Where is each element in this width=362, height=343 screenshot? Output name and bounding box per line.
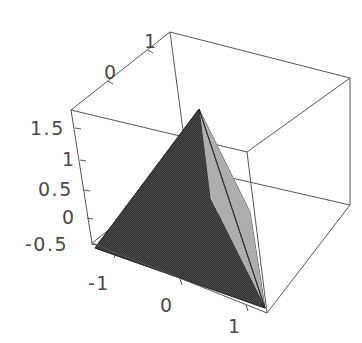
y-tick-label-1: 1 — [144, 30, 158, 52]
x-tick-0 — [180, 279, 182, 285]
x-tick-1 — [246, 305, 248, 311]
z-tick-label-0.5: 0.5 — [38, 178, 73, 200]
plot-root: 1.5 1 0.5 0 -0.5 -1 0 1 0 1 — [0, 0, 362, 343]
plot-canvas: 1.5 1 0.5 0 -0.5 -1 0 1 0 1 — [0, 0, 362, 343]
y-axis-labels: 0 1 — [104, 30, 158, 83]
z-tick-label-1.5: 1.5 — [30, 117, 65, 139]
box-bottom-front-right-edge — [267, 205, 350, 313]
z-axis-labels: 1.5 1 0.5 0 -0.5 — [25, 117, 76, 255]
x-tick-label--1: -1 — [88, 272, 110, 294]
x-tick-label-1: 1 — [228, 315, 242, 337]
z-tick-0.5 — [84, 190, 90, 191]
z-tick-1.5 — [75, 128, 81, 129]
x-tick-label-0: 0 — [160, 294, 174, 316]
z-tick-1 — [80, 160, 86, 161]
y-tick-label-0: 0 — [104, 61, 118, 83]
z-tick-label-1: 1 — [62, 148, 76, 170]
z-tick-label--0.5: -0.5 — [25, 233, 68, 255]
z-tick-label-0: 0 — [62, 206, 76, 228]
